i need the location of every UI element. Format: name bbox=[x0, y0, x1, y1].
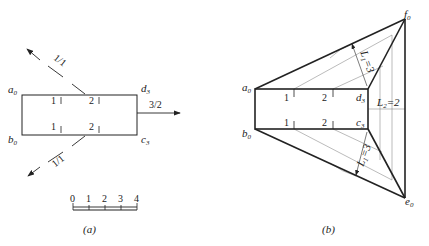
slope-label-lower: 1/1 bbox=[49, 152, 66, 169]
tick-label-top-1-b: 1 bbox=[284, 92, 289, 103]
platform-rect-b bbox=[255, 89, 368, 129]
svg-text:3: 3 bbox=[118, 193, 123, 204]
svg-text:4: 4 bbox=[134, 193, 139, 204]
dim-label-upper: L1=3 bbox=[356, 48, 377, 75]
tick-label-bottom-2-b: 2 bbox=[322, 117, 327, 128]
slope-arrow-upper bbox=[27, 49, 40, 60]
vertex-f0-label: f0 bbox=[404, 8, 411, 22]
tick-label-bottom-1-b: 1 bbox=[284, 117, 289, 128]
dim-label-lower: L1=3 bbox=[354, 142, 375, 169]
caption-a: (a) bbox=[83, 223, 96, 236]
slope-label-upper: 1/1 bbox=[52, 52, 69, 69]
svg-text:2: 2 bbox=[102, 193, 107, 204]
figure-b: 1 2 1 2 a0 b0 c3 d3 e0 f0 L1=3 L1=3 L2=2… bbox=[242, 8, 414, 236]
scale-bar: 0 1 2 3 4 bbox=[70, 193, 139, 210]
vertex-b0-label: b0 bbox=[8, 133, 18, 147]
tick-label-top-1: 1 bbox=[51, 95, 56, 106]
vertex-c3-label-b: c3 bbox=[356, 116, 365, 130]
slope-label-right: 3/2 bbox=[149, 99, 162, 110]
diagram-canvas: 1 2 1 2 a0 b0 c3 d3 1/1 1/1 3/2 0 1 bbox=[0, 0, 429, 246]
vertex-b0-label-b: b0 bbox=[242, 127, 252, 141]
tick-label-top-2: 2 bbox=[89, 95, 94, 106]
caption-b: (b) bbox=[322, 223, 335, 236]
tick-label-bottom-1: 1 bbox=[51, 121, 56, 132]
vertex-d3-label-b: d3 bbox=[356, 91, 366, 105]
tick-label-bottom-2: 2 bbox=[89, 121, 94, 132]
figure-a: 1 2 1 2 a0 b0 c3 d3 1/1 1/1 3/2 0 1 bbox=[8, 49, 180, 236]
vertex-d3-label: d3 bbox=[141, 82, 151, 96]
svg-text:1: 1 bbox=[86, 193, 91, 204]
vertex-e0-label: e0 bbox=[405, 195, 414, 209]
edge-b0-e0 bbox=[255, 129, 405, 198]
vertex-a0-label: a0 bbox=[8, 83, 18, 97]
edge-c3-e0 bbox=[368, 129, 405, 198]
tick-label-top-2-b: 2 bbox=[322, 92, 327, 103]
dim-label-right: L2=2 bbox=[376, 96, 400, 110]
vertex-c3-label: c3 bbox=[141, 133, 150, 147]
edge-a0-f0 bbox=[255, 19, 405, 89]
svg-text:0: 0 bbox=[70, 193, 75, 204]
slope-arrow-lower bbox=[28, 167, 40, 176]
edge-d3-f0 bbox=[368, 19, 405, 89]
vertex-a0-label-b: a0 bbox=[242, 81, 252, 95]
platform-rect-a bbox=[22, 95, 137, 135]
